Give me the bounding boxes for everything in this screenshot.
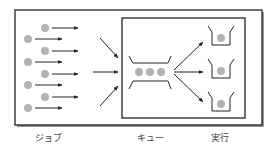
queue-label: キュー (137, 131, 164, 144)
jobs-label: ジョブ (35, 131, 62, 144)
queue-item (157, 68, 165, 76)
execution-label: 実行 (211, 131, 229, 144)
job-queue-diagram (0, 0, 276, 150)
queue-item (135, 68, 143, 76)
system-box (122, 18, 245, 118)
queue-item (146, 68, 154, 76)
